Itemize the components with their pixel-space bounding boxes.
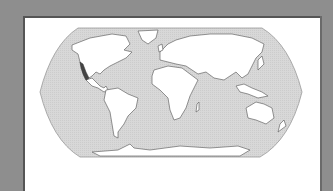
- world-map: [0, 0, 333, 191]
